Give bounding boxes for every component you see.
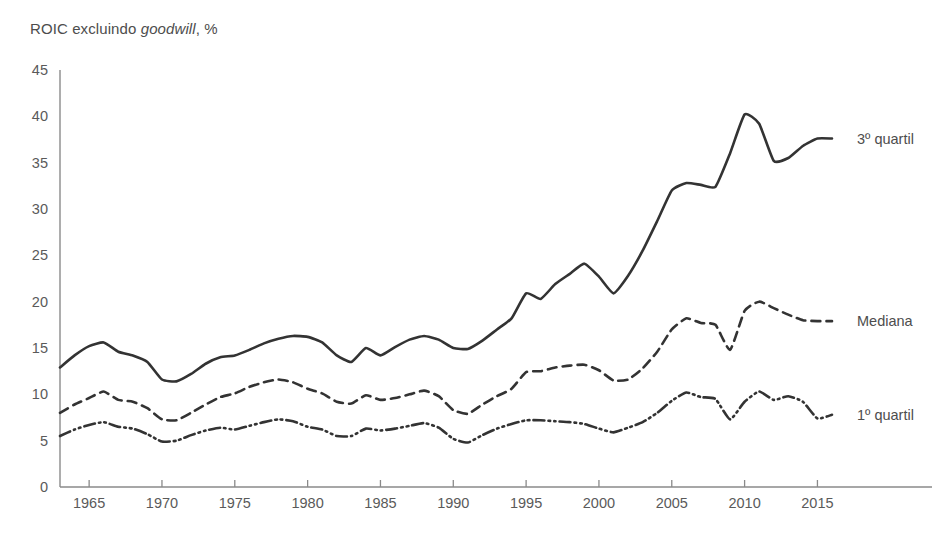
y-axis-tick-label: 30 bbox=[32, 201, 48, 217]
y-axis-tick-label: 40 bbox=[32, 108, 48, 124]
y-axis-tick-label: 5 bbox=[40, 433, 48, 449]
x-axis-tick-label: 2015 bbox=[801, 495, 833, 511]
y-axis: 051015202530354045 bbox=[32, 62, 60, 495]
y-axis-tick-label: 0 bbox=[40, 479, 48, 495]
y-axis-tick-label: 15 bbox=[32, 340, 48, 356]
x-axis-tick-label: 1975 bbox=[219, 495, 251, 511]
y-axis-tick-label: 20 bbox=[32, 294, 48, 310]
x-axis-tick-label: 1980 bbox=[291, 495, 323, 511]
x-axis-tick-label: 1990 bbox=[437, 495, 469, 511]
chart-plot-area: 051015202530354045 196519701975198019851… bbox=[0, 0, 941, 544]
series-line-3 bbox=[60, 392, 832, 443]
y-axis-tick-label: 35 bbox=[32, 155, 48, 171]
y-axis-tick-label: 25 bbox=[32, 247, 48, 263]
chart-container: ROIC excluindo goodwill, % 0510152025303… bbox=[0, 0, 941, 544]
data-series-group bbox=[60, 114, 832, 443]
series-line-1 bbox=[60, 114, 832, 381]
x-axis-tick-label: 2005 bbox=[656, 495, 688, 511]
x-axis: 1965197019751980198519901995200020052010… bbox=[60, 480, 932, 511]
x-axis-tick-label: 1985 bbox=[364, 495, 396, 511]
x-axis-tick-label: 1965 bbox=[73, 495, 105, 511]
series-label-1: 3º quartil bbox=[857, 131, 914, 147]
x-axis-tick-label: 1970 bbox=[146, 495, 178, 511]
series-label-2: Mediana bbox=[857, 313, 914, 329]
y-axis-tick-label: 45 bbox=[32, 62, 48, 78]
series-line-2 bbox=[60, 302, 832, 421]
x-axis-tick-label: 1995 bbox=[510, 495, 542, 511]
x-axis-tick-label: 2000 bbox=[583, 495, 615, 511]
series-label-3: 1º quartil bbox=[857, 407, 914, 423]
y-axis-tick-label: 10 bbox=[32, 386, 48, 402]
series-label-group: 3º quartilMediana1º quartil bbox=[857, 131, 914, 423]
x-axis-tick-label: 2010 bbox=[728, 495, 760, 511]
